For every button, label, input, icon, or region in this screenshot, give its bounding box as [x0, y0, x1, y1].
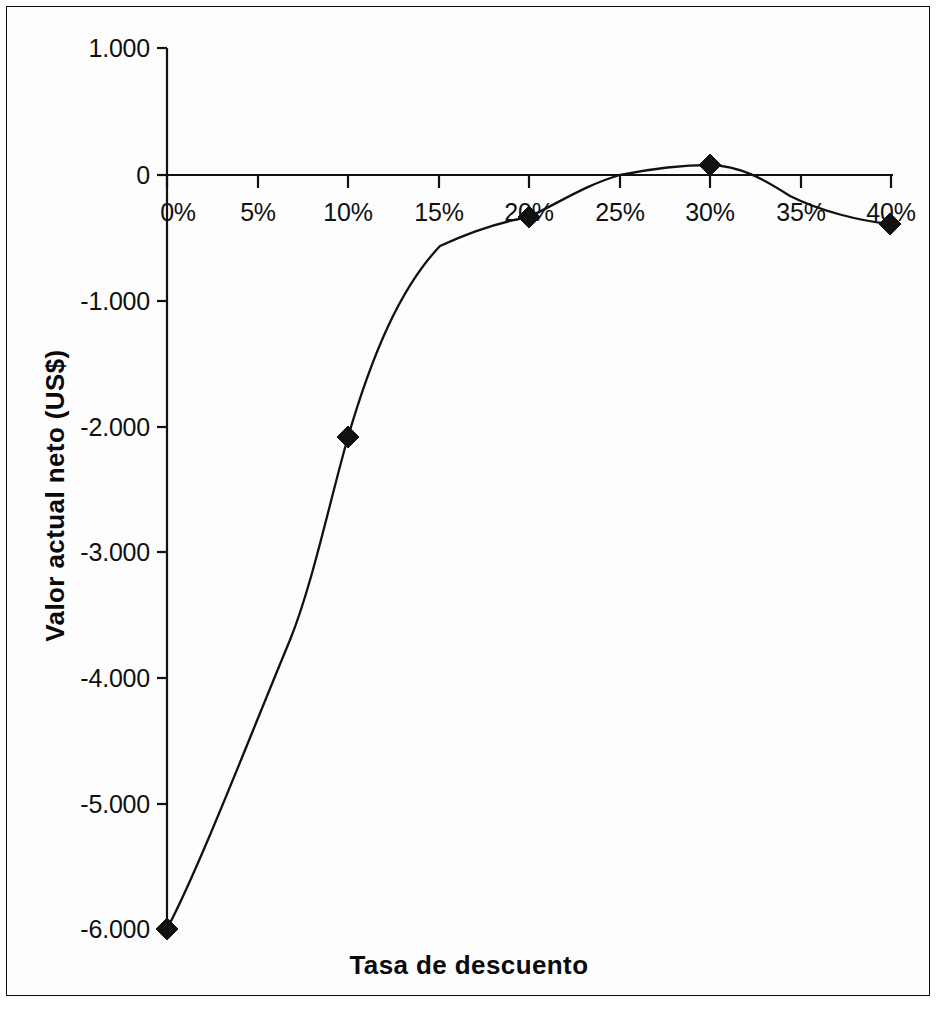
x-tick-label-30pct: 30%	[685, 198, 734, 227]
chart-plot-area	[0, 0, 938, 1011]
x-tick-label-15pct: 15%	[414, 198, 463, 227]
y-tick-label-minus-5000: -5.000	[0, 790, 150, 819]
npv-curve-line	[167, 165, 890, 929]
y-tick-label-1000: 1.000	[0, 34, 150, 63]
y-tick-label-minus-4000: -4.000	[0, 664, 150, 693]
y-tick-label-minus-1000: -1.000	[0, 287, 150, 316]
data-point-markers	[156, 154, 901, 940]
x-axis-title: Tasa de descuento	[0, 950, 938, 981]
y-axis-title: Valor actual neto (US$)	[40, 236, 71, 756]
x-tick-label-10pct: 10%	[323, 198, 372, 227]
x-tick-label-40pct: 40%	[866, 198, 915, 227]
chart-figure: 1.000 0 -1.000 -2.000 -3.000 -4.000 -5.0…	[0, 0, 938, 1011]
y-tick-label-minus-3000: -3.000	[0, 538, 150, 567]
data-point-10pct	[337, 426, 359, 448]
data-point-0pct	[156, 918, 178, 940]
x-tick-label-25pct: 25%	[595, 198, 644, 227]
y-tick-label-minus-6000: -6.000	[0, 915, 150, 944]
x-tick-label-0pct: 0%	[160, 198, 196, 227]
x-axis-ticks	[167, 175, 891, 188]
y-tick-label-minus-2000: -2.000	[0, 413, 150, 442]
x-tick-label-35pct: 35%	[776, 198, 825, 227]
x-tick-label-5pct: 5%	[240, 198, 276, 227]
y-axis-ticks	[157, 48, 167, 929]
x-tick-label-20pct: 20%	[504, 198, 553, 227]
data-point-30pct	[699, 154, 721, 176]
y-tick-label-0: 0	[0, 161, 150, 190]
